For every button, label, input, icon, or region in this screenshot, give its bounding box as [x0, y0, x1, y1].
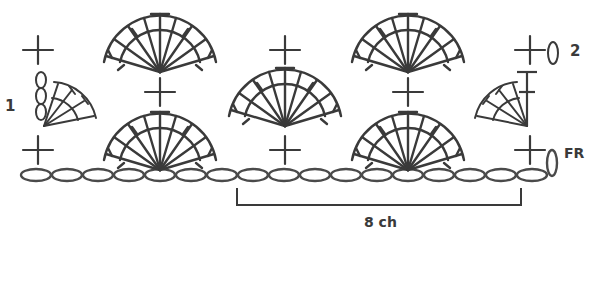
- row2-right-half-fan: [475, 72, 537, 126]
- row2-left-half-fan: [36, 72, 96, 126]
- row2-center-fan: [229, 68, 341, 126]
- foundation-label: FR: [564, 145, 584, 161]
- row-label-1: 1: [5, 97, 15, 115]
- row1-single-crochets: [23, 136, 545, 164]
- repeat-bracket: [237, 188, 521, 205]
- row2-single-crochets: [23, 36, 545, 64]
- crochet-chart: [0, 0, 593, 290]
- row-label-2: 2: [570, 42, 580, 60]
- foundation-chain: [21, 150, 557, 181]
- turning-chain: [548, 42, 558, 64]
- repeat-label: 8 ch: [364, 214, 397, 230]
